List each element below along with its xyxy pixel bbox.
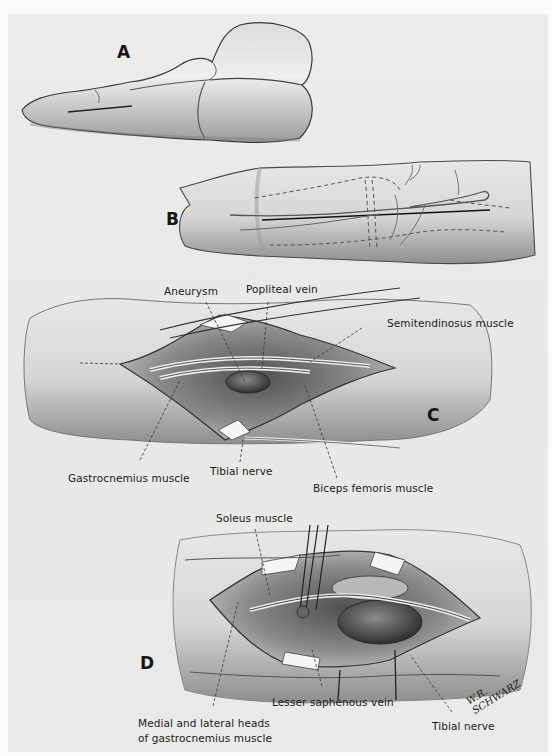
label-semitendinosus-muscle: Semitendinosus muscle <box>387 317 514 329</box>
label-medial-lateral-heads-line1: Medial and lateral heads <box>138 717 270 729</box>
panel-d-drawing <box>173 525 531 712</box>
anatomical-illustration <box>0 0 552 756</box>
label-tibial-nerve-c: Tibial nerve <box>210 465 273 477</box>
label-medial-lateral-heads-line2: of gastrocnemius muscle <box>138 732 272 744</box>
panel-letter-a: A <box>117 42 130 62</box>
panel-letter-d: D <box>140 653 154 673</box>
label-lesser-saphenous-vein: Lesser saphenous vein <box>272 696 394 708</box>
label-biceps-femoris-muscle: Biceps femoris muscle <box>313 482 433 494</box>
panel-a-drawing <box>22 23 312 143</box>
label-soleus-muscle: Soleus muscle <box>216 512 293 524</box>
label-gastrocnemius-muscle: Gastrocnemius muscle <box>68 472 190 484</box>
label-aneurysm: Aneurysm <box>164 285 218 297</box>
panel-letter-b: B <box>166 209 179 229</box>
panel-b-drawing <box>180 161 535 264</box>
label-popliteal-vein: Popliteal vein <box>246 283 318 295</box>
panel-letter-c: C <box>427 405 439 425</box>
label-tibial-nerve-d: Tibial nerve <box>432 720 495 732</box>
